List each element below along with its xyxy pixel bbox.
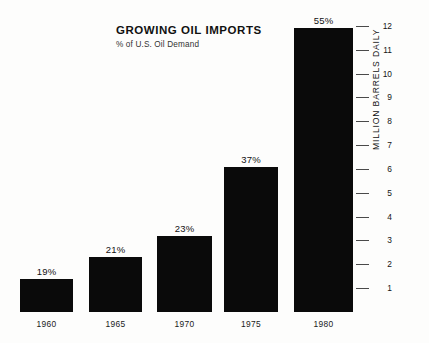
y-axis-tick-4: 4 bbox=[356, 212, 392, 222]
bar-1975 bbox=[224, 167, 278, 312]
bar-group-1980: 55%1980 bbox=[294, 0, 353, 343]
tick-mark-icon bbox=[356, 264, 369, 265]
tick-mark-icon bbox=[356, 26, 369, 27]
bar-value-label: 21% bbox=[89, 244, 142, 255]
bar-group-1975: 37%1975 bbox=[224, 0, 278, 343]
bar-value-label: 55% bbox=[294, 15, 353, 26]
tick-mark-icon bbox=[356, 121, 369, 122]
bar-group-1960: 19%1960 bbox=[20, 0, 73, 343]
y-axis-tick-6: 6 bbox=[356, 164, 392, 174]
y-axis-tick-label: 5 bbox=[377, 188, 392, 198]
oil-imports-bar-chart: GROWING OIL IMPORTS % of U.S. Oil Demand… bbox=[0, 0, 429, 343]
x-axis-tick-label: 1980 bbox=[294, 319, 353, 329]
tick-mark-icon bbox=[356, 145, 369, 146]
x-axis-tick-label: 1975 bbox=[224, 319, 278, 329]
bar-1960 bbox=[20, 279, 73, 312]
bar-value-label: 37% bbox=[224, 154, 278, 165]
tick-mark-icon bbox=[356, 50, 369, 51]
y-axis-tick-2: 2 bbox=[356, 259, 392, 269]
y-axis-tick-label: 1 bbox=[377, 283, 392, 293]
bar-1965 bbox=[89, 257, 142, 312]
y-axis-tick-label: 2 bbox=[377, 259, 392, 269]
y-axis-title: MILLION BARRELS DAILY bbox=[371, 29, 381, 150]
bar-group-1965: 21%1965 bbox=[89, 0, 142, 343]
y-axis-tick-label: 4 bbox=[377, 212, 392, 222]
y-axis-tick-label: 3 bbox=[377, 235, 392, 245]
tick-mark-icon bbox=[356, 97, 369, 98]
tick-mark-icon bbox=[356, 288, 369, 289]
tick-mark-icon bbox=[356, 217, 369, 218]
bar-value-label: 19% bbox=[20, 266, 73, 277]
y-axis-tick-1: 1 bbox=[356, 283, 392, 293]
tick-mark-icon bbox=[356, 240, 369, 241]
tick-mark-icon bbox=[356, 169, 369, 170]
x-axis-tick-label: 1970 bbox=[157, 319, 212, 329]
tick-mark-icon bbox=[356, 193, 369, 194]
bar-group-1970: 23%1970 bbox=[157, 0, 212, 343]
tick-mark-icon bbox=[356, 74, 369, 75]
bar-value-label: 23% bbox=[157, 223, 212, 234]
bar-1980 bbox=[294, 28, 353, 312]
x-axis-tick-label: 1960 bbox=[20, 319, 73, 329]
y-axis-tick-3: 3 bbox=[356, 235, 392, 245]
y-axis-tick-5: 5 bbox=[356, 188, 392, 198]
x-axis-tick-label: 1965 bbox=[89, 319, 142, 329]
y-axis-tick-label: 6 bbox=[377, 164, 392, 174]
bar-1970 bbox=[157, 236, 212, 312]
